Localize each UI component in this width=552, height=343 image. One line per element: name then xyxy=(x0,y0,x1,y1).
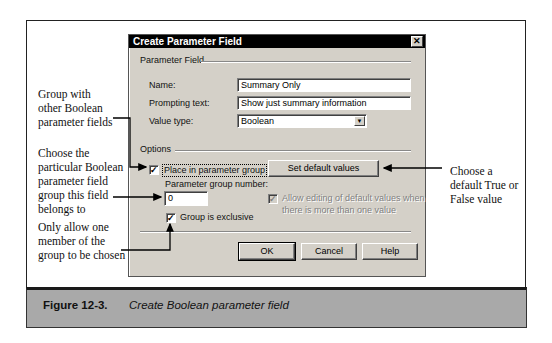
arrow-group-with xyxy=(113,118,146,167)
figure-number: Figure 12-3. xyxy=(43,299,108,311)
figure-caption: Figure 12-3. Create Boolean parameter fi… xyxy=(26,287,527,328)
arrow-exclusive xyxy=(121,224,170,250)
figure-caption-text: Create Boolean parameter field xyxy=(129,299,289,311)
